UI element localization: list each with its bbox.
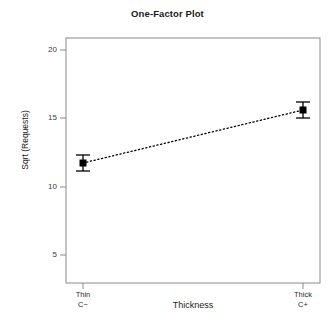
y-tick-label-10: 10 [41, 182, 57, 191]
x-tick-label-thick-line1: Thick [273, 290, 333, 300]
data-point-thin [80, 160, 87, 167]
x-tick-label-thin-line1: Thin [53, 290, 113, 300]
one-factor-plot-figure: One-Factor Plot [0, 0, 335, 326]
y-axis-title: Sqrt (Requests) [20, 70, 30, 210]
x-axis-title: Thickness [66, 300, 320, 310]
y-tick-label-5: 5 [41, 250, 57, 259]
y-tick-label-15: 15 [41, 113, 57, 122]
x-axis-ticks [83, 283, 303, 289]
y-axis-ticks [60, 50, 66, 255]
y-tick-label-20: 20 [41, 45, 57, 54]
plot-frame [66, 38, 320, 283]
data-point-thick [300, 107, 307, 114]
trend-line [83, 110, 303, 163]
